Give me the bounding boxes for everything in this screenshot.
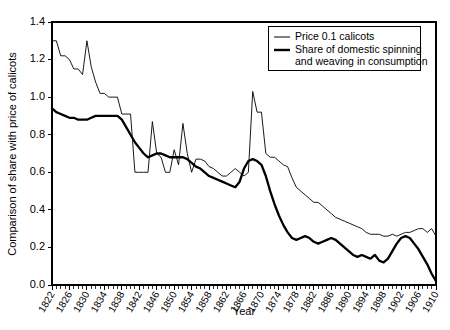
x-tick-label: 1826: [54, 289, 75, 314]
x-tick-label: 1822: [36, 289, 57, 314]
y-tick-label: 0.4: [30, 203, 45, 215]
data-series-layer: [52, 41, 436, 281]
x-tick-label: 1894: [350, 289, 371, 314]
x-tick-label: 1886: [315, 289, 336, 314]
x-tick-label: 1878: [280, 289, 301, 314]
x-tick-label: 1854: [176, 289, 197, 314]
chart-figure: 0.00.20.40.60.81.01.21.4 182218261830183…: [0, 0, 450, 330]
x-tick-label: 1862: [211, 289, 232, 314]
x-tick-label: 1838: [106, 289, 127, 314]
y-tick-label: 0.6: [30, 165, 45, 177]
x-tick-label: 1874: [263, 289, 284, 314]
chart-legend: Price 0.1 calicotsShare of domestic spin…: [268, 26, 428, 70]
x-tick-label: 1898: [368, 289, 389, 314]
x-tick-label: 1830: [71, 289, 92, 314]
y-tick-label: 0.8: [30, 128, 45, 140]
y-axis-title: Comparison of share with price of calico…: [6, 52, 18, 256]
y-tick-label: 0.0: [30, 278, 45, 290]
x-axis-title: Year: [233, 305, 256, 317]
y-tick-label: 1.0: [30, 90, 45, 102]
legend-label-2: Share of domestic spinning: [295, 43, 422, 55]
x-tick-label: 1906: [403, 289, 424, 314]
line-chart: 0.00.20.40.60.81.01.21.4 182218261830183…: [0, 0, 450, 330]
x-tick-label: 1850: [158, 289, 179, 314]
x-tick-label: 1858: [193, 289, 214, 314]
series-line-2: [52, 108, 436, 281]
x-tick-label: 1890: [333, 289, 354, 314]
x-tick-label: 1910: [420, 289, 441, 314]
y-tick-label: 1.4: [30, 15, 45, 27]
y-axis-ticks: 0.00.20.40.60.81.01.21.4: [30, 15, 52, 290]
x-tick-label: 1846: [141, 289, 162, 314]
y-tick-label: 0.2: [30, 240, 45, 252]
x-tick-label: 1834: [88, 289, 109, 314]
y-tick-label: 1.2: [30, 52, 45, 64]
legend-label-1: Price 0.1 calicots: [295, 30, 374, 42]
x-tick-label: 1842: [123, 289, 144, 314]
legend-label-3: and weaving in consumption: [295, 55, 428, 67]
x-tick-label: 1902: [385, 289, 406, 314]
x-tick-label: 1882: [298, 289, 319, 314]
